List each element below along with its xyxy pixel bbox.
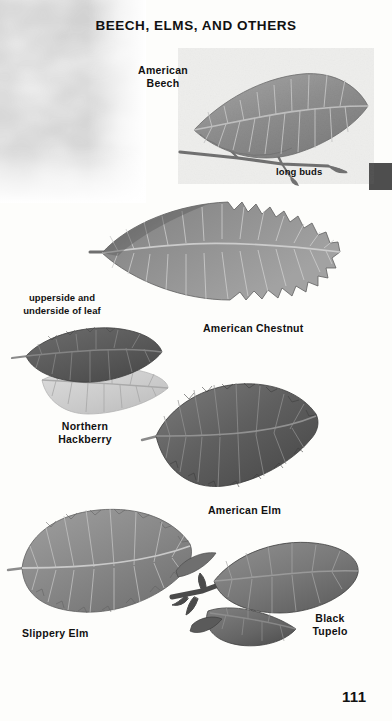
label-slippery-elm: Slippery Elm xyxy=(22,627,152,640)
label-northern-hackberry: Northern Hackberry xyxy=(35,420,135,445)
american-elm-illustration xyxy=(140,378,330,498)
field-guide-page: BEECH, ELMS, AND OTHERS xyxy=(0,0,392,721)
label-upperside-underside: upperside and underside of leaf xyxy=(3,292,121,317)
page-number: 111 xyxy=(342,688,384,705)
label-long-buds: long buds xyxy=(276,166,356,179)
american-chestnut-illustration xyxy=(88,196,356,318)
label-american-elm: American Elm xyxy=(208,504,338,517)
label-black-tupelo: Black Tupelo xyxy=(288,612,372,637)
label-american-chestnut: American Chestnut xyxy=(203,322,353,335)
label-american-beech: American Beech xyxy=(118,64,208,89)
page-title: BEECH, ELMS, AND OTHERS xyxy=(0,18,392,33)
